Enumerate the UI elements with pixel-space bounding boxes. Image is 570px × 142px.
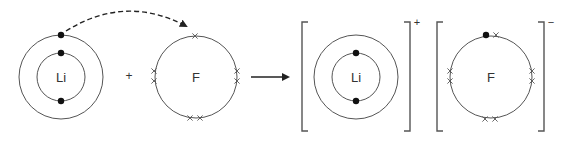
electron-dot-icon	[58, 32, 64, 38]
right-bracket	[538, 22, 544, 131]
electron-cross-icon	[151, 78, 156, 83]
element-symbol: F	[192, 70, 200, 85]
electron-dot-icon	[353, 50, 359, 56]
right-bracket	[404, 22, 410, 131]
electron-cross-icon	[492, 116, 497, 121]
ion-charge-label: −	[548, 16, 554, 28]
ionic-bond-diagram: Li + F Li+ F−	[0, 0, 570, 142]
element-symbol: Li	[56, 70, 66, 85]
left-bracket	[437, 22, 443, 131]
electron-dot-icon	[58, 98, 64, 104]
lithium-atom: Li	[19, 32, 103, 119]
electron-dot-icon	[353, 98, 359, 104]
ion-charge-label: +	[414, 16, 420, 28]
plus-sign: +	[125, 69, 132, 83]
lithium-ion: Li+	[302, 16, 420, 131]
fluoride-ion: F−	[437, 16, 554, 131]
electron-dot-icon	[483, 32, 489, 38]
element-symbol: Li	[351, 70, 361, 85]
electron-dot-icon	[58, 50, 64, 56]
fluorine-atom: F	[151, 33, 239, 120]
electron-cross-icon	[493, 32, 498, 37]
left-bracket	[302, 22, 308, 131]
electron-transfer-arrow	[66, 11, 186, 31]
element-symbol: F	[487, 70, 495, 85]
